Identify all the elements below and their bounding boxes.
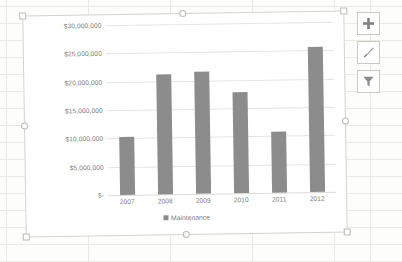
y-axis-tick-label: $25,000,000 bbox=[64, 50, 102, 58]
bar-slot bbox=[182, 23, 223, 194]
bar-slot bbox=[295, 22, 336, 193]
bar-slot bbox=[144, 24, 185, 195]
bar-2008[interactable] bbox=[156, 75, 173, 195]
bar-2009[interactable] bbox=[194, 71, 211, 194]
x-axis-tick-label: 2008 bbox=[146, 197, 184, 212]
legend-swatch-maintenance bbox=[163, 215, 168, 220]
funnel-icon bbox=[362, 75, 375, 88]
y-axis-tick-label: $- bbox=[98, 192, 104, 199]
chart-elements-button[interactable] bbox=[357, 12, 380, 35]
bar-series-maintenance[interactable] bbox=[105, 22, 336, 196]
selection-handle-bottom-right[interactable] bbox=[344, 228, 351, 235]
bar-2011[interactable] bbox=[271, 131, 287, 192]
bar-slot bbox=[106, 25, 147, 196]
y-axis-tick-label: $15,000,000 bbox=[65, 107, 103, 115]
selection-handle-bottom-left[interactable] bbox=[23, 233, 30, 240]
y-axis-tick-label: $5,000,000 bbox=[70, 163, 104, 171]
y-axis-tick-label: $10,000,000 bbox=[65, 135, 103, 143]
x-axis-tick-label: 2007 bbox=[108, 198, 146, 213]
chart-object[interactable]: $-$5,000,000$10,000,000$15,000,000$20,00… bbox=[22, 10, 347, 237]
paintbrush-icon bbox=[362, 46, 375, 59]
legend-label-maintenance: Maintenance bbox=[171, 214, 210, 222]
bar-slot bbox=[257, 22, 298, 193]
x-axis-tick-label: 2012 bbox=[298, 195, 336, 210]
bar-2007[interactable] bbox=[119, 137, 135, 195]
chart-styles-button[interactable] bbox=[357, 41, 380, 64]
selection-handle-top-left[interactable] bbox=[19, 12, 26, 19]
bar-2012[interactable] bbox=[307, 47, 324, 192]
y-axis: $-$5,000,000$10,000,000$15,000,000$20,00… bbox=[27, 25, 104, 196]
y-axis-tick-label: $30,000,000 bbox=[64, 22, 102, 30]
chart-filters-button[interactable] bbox=[357, 70, 380, 93]
x-axis: 200720082009201020112012 bbox=[108, 195, 336, 213]
selection-handle-bottom-center[interactable] bbox=[183, 231, 190, 238]
chart-legend[interactable]: Maintenance bbox=[26, 211, 346, 223]
x-axis-tick-label: 2009 bbox=[184, 196, 222, 211]
plot-area bbox=[105, 22, 336, 196]
x-axis-tick-label: 2011 bbox=[260, 195, 298, 210]
chart-plot-wrapper: $-$5,000,000$10,000,000$15,000,000$20,00… bbox=[23, 12, 346, 237]
selection-handle-top-center[interactable] bbox=[179, 10, 186, 17]
bar-2010[interactable] bbox=[232, 92, 249, 194]
bar-slot bbox=[220, 23, 261, 194]
x-axis-tick-label: 2010 bbox=[222, 196, 260, 211]
chart-side-buttons bbox=[357, 12, 380, 93]
sheet-column-line bbox=[6, 0, 7, 262]
selection-handle-left-center[interactable] bbox=[21, 122, 28, 129]
sheet-row-line bbox=[0, 244, 402, 245]
selection-handle-right-center[interactable] bbox=[342, 117, 349, 124]
y-axis-tick-label: $20,000,000 bbox=[64, 78, 102, 86]
selection-handle-top-right[interactable] bbox=[340, 7, 347, 14]
plus-icon bbox=[362, 17, 375, 30]
